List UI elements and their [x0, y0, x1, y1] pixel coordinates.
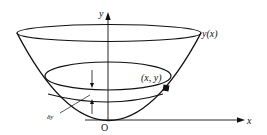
x-axis-arrow-icon	[237, 117, 245, 122]
point-marker	[163, 85, 170, 92]
point-label: (x, y)	[141, 72, 162, 84]
y-axis	[105, 12, 110, 120]
origin-label: O	[101, 122, 108, 133]
y-axis-arrow-icon	[105, 12, 110, 20]
delta-y-arrows	[90, 70, 94, 114]
x-axis-label: x	[246, 115, 252, 126]
paraboloid-diagram: y x O y(x) (x, y) δy	[0, 0, 267, 135]
curve-label: y(x)	[201, 28, 218, 40]
top-rim-ellipse	[17, 25, 201, 42]
y-axis-label: y	[98, 8, 104, 19]
delta-y-label: δy	[47, 113, 54, 121]
arrow-down-icon	[90, 83, 94, 88]
